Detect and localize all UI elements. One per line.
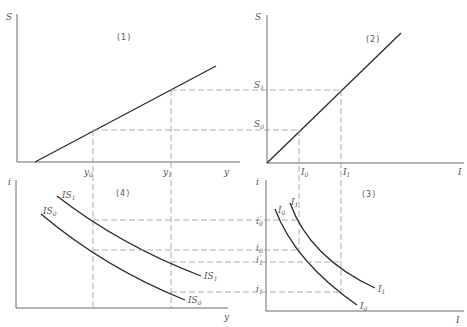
p3-i1-label: i1 bbox=[256, 284, 263, 295]
p3-curve-i1-top-label: I1 bbox=[290, 197, 298, 208]
p2-i-axis-label: I bbox=[457, 167, 462, 177]
p1-y0-label: y0 bbox=[83, 167, 93, 178]
p4-i-axis-label: i bbox=[8, 177, 11, 187]
p2-i1-label: I1 bbox=[342, 167, 350, 178]
panel-1-saving-function: S (1) y y0 y1 bbox=[6, 12, 341, 308]
p3-i-axis-label: i bbox=[256, 177, 259, 187]
p3-curve-i0 bbox=[275, 209, 357, 305]
p4-curve-is0 bbox=[41, 214, 185, 300]
p2-panel-label: (2) bbox=[366, 35, 380, 44]
p4-is0-end-label: IS0 bbox=[187, 295, 202, 306]
p3-curve-i1 bbox=[290, 203, 375, 288]
p2-s-axis-label: S bbox=[255, 12, 261, 22]
p4-y-axis-label: y bbox=[223, 312, 230, 322]
p3-panel-label: (3) bbox=[362, 190, 376, 199]
p3-investment-axis-label: I bbox=[455, 315, 460, 325]
p4-is1-start-label: IS1 bbox=[61, 190, 76, 201]
p1-s-axis-label: S bbox=[6, 12, 12, 22]
p4-panel-label: (4) bbox=[116, 189, 130, 198]
p3-curve-i1-end-label: I1 bbox=[377, 284, 385, 295]
p1-y1-label: y1 bbox=[162, 167, 172, 178]
p2-i0-label: I0 bbox=[300, 167, 309, 178]
p1-saving-line bbox=[35, 66, 216, 162]
p4-curve-is1 bbox=[57, 196, 201, 276]
four-quadrant-is-diagram: S (1) y y0 y1 S (2) S1 S0 I I0 I1 i (3) … bbox=[0, 0, 467, 327]
p3-curve-i0-end-label: I0 bbox=[359, 301, 368, 312]
p4-is0-start-label: IS0 bbox=[42, 206, 57, 217]
p3-i1-prime-label: i1' bbox=[256, 253, 263, 266]
p2-s1-label: S1 bbox=[254, 80, 264, 91]
p4-is1-end-label: IS1 bbox=[203, 271, 218, 282]
p1-panel-label: (1) bbox=[117, 33, 131, 42]
p3-i0-prime-label: i0' bbox=[256, 214, 263, 227]
p1-y-axis-label: y bbox=[223, 167, 230, 177]
p3-curve-i0-top-label: I0 bbox=[277, 205, 286, 216]
p2-45-degree-line bbox=[267, 33, 401, 163]
p2-s0-label: S0 bbox=[254, 119, 264, 130]
panel-3-investment-functions: i (3) i0' i0 i1' i1 I0 I1 I0 I1 I bbox=[256, 177, 464, 325]
